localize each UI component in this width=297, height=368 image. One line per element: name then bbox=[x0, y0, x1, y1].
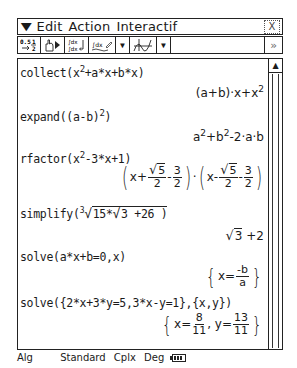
menu-edit[interactable]: Edit bbox=[36, 19, 62, 34]
battery-icon bbox=[172, 354, 186, 362]
status-mode: Alg bbox=[17, 352, 33, 363]
status-bar: Alg Standard Cplx Deg bbox=[17, 352, 191, 363]
dropdown-arrow-icon: ▼ bbox=[120, 42, 125, 49]
vertical-scrollbar[interactable]: ▲ bbox=[268, 59, 282, 349]
entry-output-solve-linear: {x=-ba} bbox=[204, 264, 264, 289]
status-format: Standard bbox=[60, 352, 106, 363]
fraction-decimal-icon: 0.5 1 2 bbox=[20, 38, 38, 52]
toolbar-next-button[interactable]: » bbox=[265, 37, 282, 53]
entry-input-solve-linear[interactable]: solve(a*x+b=0,x) bbox=[20, 250, 126, 264]
entry-input-solve-system[interactable]: solve({2*x+3*y=5,3*x-y=1},{x,y}) bbox=[20, 296, 232, 310]
entry-output-expand: a2+b2-2·a·b bbox=[193, 128, 264, 144]
entry-input-expand[interactable]: expand((a-b)2) bbox=[20, 108, 111, 124]
toolbar-spacer bbox=[171, 37, 265, 53]
menu-down-arrow-icon[interactable]: ▼ bbox=[21, 20, 32, 33]
fraction-decimal-button[interactable]: 0.5 1 2 bbox=[18, 37, 41, 53]
menu-interactif[interactable]: Interactif bbox=[116, 19, 177, 34]
app-frame: ▼ Edit Action Interactif X 0.5 1 2 ∫dx ∫… bbox=[17, 18, 283, 54]
graph-dropdown[interactable]: ▼ bbox=[157, 37, 171, 53]
entry-output-rfactor: (x+√52-32)·(x-√52-32) bbox=[120, 164, 264, 190]
scroll-track[interactable] bbox=[272, 74, 279, 348]
entry-output-simplify: √3 +2 bbox=[226, 228, 264, 243]
double-chevron-right-icon: » bbox=[270, 42, 277, 49]
calculus-icon: ∫dx bbox=[91, 38, 113, 52]
svg-text:0.5: 0.5 bbox=[20, 38, 31, 45]
entry-output-collect: (a+b)·x+x2 bbox=[196, 84, 264, 100]
calculus-dropdown[interactable]: ▼ bbox=[116, 37, 130, 53]
svg-text:∫dx: ∫dx bbox=[92, 41, 103, 49]
scroll-up-arrow-icon[interactable]: ▲ bbox=[269, 59, 282, 73]
calculus-button[interactable]: ∫dx bbox=[89, 37, 116, 53]
main-work-area[interactable]: collect(x2+a*x+b*x) (a+b)·x+x2 expand((a… bbox=[17, 58, 283, 350]
hand-pointer-icon bbox=[43, 38, 62, 52]
svg-text:∫dx: ∫dx bbox=[68, 46, 78, 52]
status-angle: Deg bbox=[144, 352, 164, 363]
toolbar: 0.5 1 2 ∫dx ∫dx ∫dx bbox=[17, 36, 283, 54]
svg-text:∫dx: ∫dx bbox=[68, 39, 78, 46]
menu-bar: ▼ Edit Action Interactif X bbox=[17, 18, 283, 35]
menu-action[interactable]: Action bbox=[68, 19, 110, 34]
graph-icon bbox=[132, 38, 154, 52]
integral-substitute-button[interactable]: ∫dx ∫dx bbox=[65, 37, 89, 53]
status-complex: Cplx bbox=[114, 352, 136, 363]
entry-input-rfactor[interactable]: rfactor(x2-3*x+1) bbox=[20, 150, 131, 166]
close-button[interactable]: X bbox=[264, 20, 280, 34]
dropdown-arrow-icon: ▼ bbox=[161, 42, 166, 49]
entry-output-solve-system: {x=811, y=1311} bbox=[160, 312, 264, 337]
entry-input-collect[interactable]: collect(x2+a*x+b*x) bbox=[20, 64, 144, 80]
graph-button[interactable] bbox=[130, 37, 157, 53]
svg-text:1: 1 bbox=[32, 38, 36, 45]
svg-text:2: 2 bbox=[32, 45, 36, 52]
entry-input-simplify[interactable]: simplify(3√15*√3 +26 ) bbox=[20, 206, 167, 221]
hand-execute-button[interactable] bbox=[41, 37, 65, 53]
integral-icon: ∫dx ∫dx bbox=[67, 38, 86, 52]
